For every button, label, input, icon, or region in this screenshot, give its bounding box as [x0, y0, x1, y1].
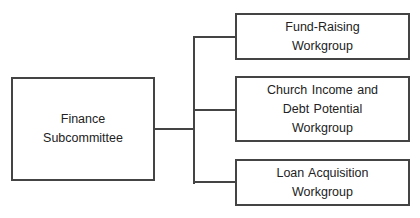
loan-acquisition-workgroup-box: Loan Acquisition Workgroup	[235, 159, 410, 206]
diagram-title-cropped	[120, 0, 300, 3]
church-income-workgroup-box: Church Income and Debt Potential Workgro…	[235, 76, 410, 142]
fund-raising-connector-line	[193, 36, 236, 38]
finance-subcommittee-box: Finance Subcommittee	[11, 77, 155, 181]
root-connector-line	[155, 128, 195, 130]
finance-subcommittee-label: Finance Subcommittee	[43, 110, 123, 148]
loan-acquisition-connector-line	[193, 181, 236, 183]
fund-raising-workgroup-label: Fund-Raising Workgroup	[285, 18, 359, 56]
loan-acquisition-workgroup-label: Loan Acquisition Workgroup	[276, 164, 368, 202]
church-income-workgroup-label: Church Income and Debt Potential Workgro…	[267, 81, 378, 138]
fund-raising-workgroup-box: Fund-Raising Workgroup	[235, 13, 410, 60]
church-income-connector-line	[193, 109, 236, 111]
